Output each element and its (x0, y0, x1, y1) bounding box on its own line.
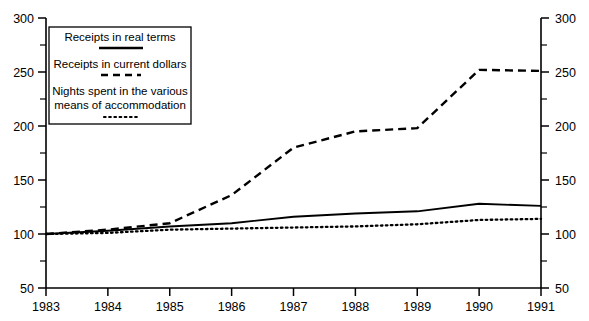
left-tick-label-150: 150 (13, 174, 34, 188)
x-tick-label-1985: 1985 (156, 300, 184, 314)
x-tick-label-1988: 1988 (341, 300, 369, 314)
right-tick-label-200: 200 (555, 120, 576, 134)
right-axis-minor-ticks (541, 45, 547, 261)
right-tick-label-250: 250 (555, 66, 576, 80)
left-tick-label-300: 300 (13, 12, 34, 26)
x-tick-label-1984: 1984 (94, 300, 122, 314)
right-y-axis: 300 250 200 150 100 50 (541, 12, 576, 296)
left-tick-label-50: 50 (20, 282, 34, 296)
x-tick-label-1987: 1987 (280, 300, 308, 314)
left-axis-minor-ticks (40, 45, 46, 261)
left-y-axis: 300 250 200 150 100 50 (13, 12, 46, 296)
x-axis-tick-labels: 198319841985198619871988198919901991 (32, 300, 555, 314)
legend-label-nights-spent-line2: means of accommodation (54, 99, 186, 111)
line-chart-figure: 300 250 200 150 100 50 (0, 0, 589, 321)
chart-canvas: 300 250 200 150 100 50 (0, 0, 589, 321)
x-tick-label-1989: 1989 (403, 300, 431, 314)
x-axis: 198319841985198619871988198919901991 (32, 288, 555, 314)
legend-label-nights-spent-line1: Nights spent in the various (52, 85, 188, 97)
series-receipts-real-terms (46, 204, 541, 234)
left-tick-label-250: 250 (13, 66, 34, 80)
x-tick-label-1991: 1991 (527, 300, 555, 314)
legend-label-receipts-real-terms: Receipts in real terms (64, 31, 175, 43)
right-tick-label-300: 300 (555, 12, 576, 26)
left-tick-label-100: 100 (13, 228, 34, 242)
x-tick-label-1986: 1986 (218, 300, 246, 314)
series-nights-spent (46, 219, 541, 234)
right-tick-label-150: 150 (555, 174, 576, 188)
x-tick-label-1990: 1990 (465, 300, 493, 314)
chart-legend: Receipts in real terms Receipts in curre… (49, 27, 191, 124)
left-tick-label-200: 200 (13, 120, 34, 134)
right-tick-label-100: 100 (555, 228, 576, 242)
x-axis-ticks (46, 288, 541, 296)
legend-label-receipts-current-dollars: Receipts in current dollars (54, 58, 187, 70)
x-tick-label-1983: 1983 (32, 300, 60, 314)
right-tick-label-50: 50 (555, 282, 569, 296)
